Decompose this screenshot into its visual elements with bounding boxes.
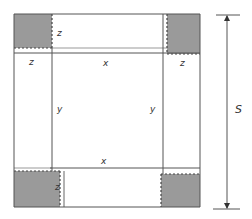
arrow-up-icon	[224, 15, 230, 21]
corner-top-left	[14, 14, 52, 48]
corner-bottom-left	[14, 171, 60, 207]
label-right-flap-z: z	[179, 58, 185, 68]
corner-bottom-right	[161, 174, 200, 207]
box-net-diagram: z z x z y y S x z	[0, 0, 252, 219]
label-left-flap-z: z	[28, 57, 34, 67]
label-right-y: y	[149, 104, 156, 114]
label-bottom-x: x	[100, 156, 107, 166]
label-side-s: S	[235, 103, 242, 116]
label-bottom-flap-z: z	[54, 182, 60, 192]
corner-top-right	[167, 14, 200, 54]
label-top-flap-z: z	[56, 28, 62, 38]
corner-cutouts	[14, 14, 200, 207]
label-top-x: x	[102, 58, 109, 68]
arrow-down-icon	[224, 203, 230, 209]
label-left-y: y	[56, 104, 63, 114]
